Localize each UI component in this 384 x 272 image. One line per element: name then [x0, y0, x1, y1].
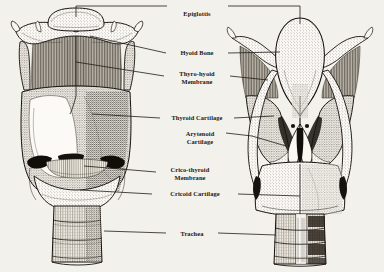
anterior-thyrohyoid-membrane	[32, 34, 122, 92]
label-text-epiglottis: Epiglottis	[183, 10, 211, 17]
label-text-arytenoid-line2: Cartilage	[187, 138, 214, 145]
label-text-thyrohyoid-line1: Thyro-hyoid	[179, 70, 215, 77]
anterior-trachea	[52, 206, 102, 265]
label-text-cricothyroid-line1: Crico-thyroid	[171, 166, 210, 173]
anatomy-diagram: Epiglottis Hyoid Bone Thyro-hyoid Membra…	[0, 0, 384, 272]
label-text-arytenoid-line1: Arytenoid	[186, 130, 215, 137]
label-text-thyrohyoid-line2: Membrane	[182, 78, 213, 85]
label-text-hyoid-bone: Hyoid Bone	[180, 49, 213, 56]
larynx-illustration: Epiglottis Hyoid Bone Thyro-hyoid Membra…	[0, 0, 384, 272]
label-text-cricoid-cartilage: Cricoid Cartilage	[170, 190, 220, 197]
label-text-cricothyroid-line2: Membrane	[175, 174, 206, 181]
posterior-trachea	[274, 214, 326, 266]
label-text-thyroid-cartilage: Thyroid Cartilage	[171, 114, 222, 121]
label-text-trachea: Trachea	[181, 230, 205, 237]
posterior-cricoid-cartilage	[253, 162, 347, 216]
